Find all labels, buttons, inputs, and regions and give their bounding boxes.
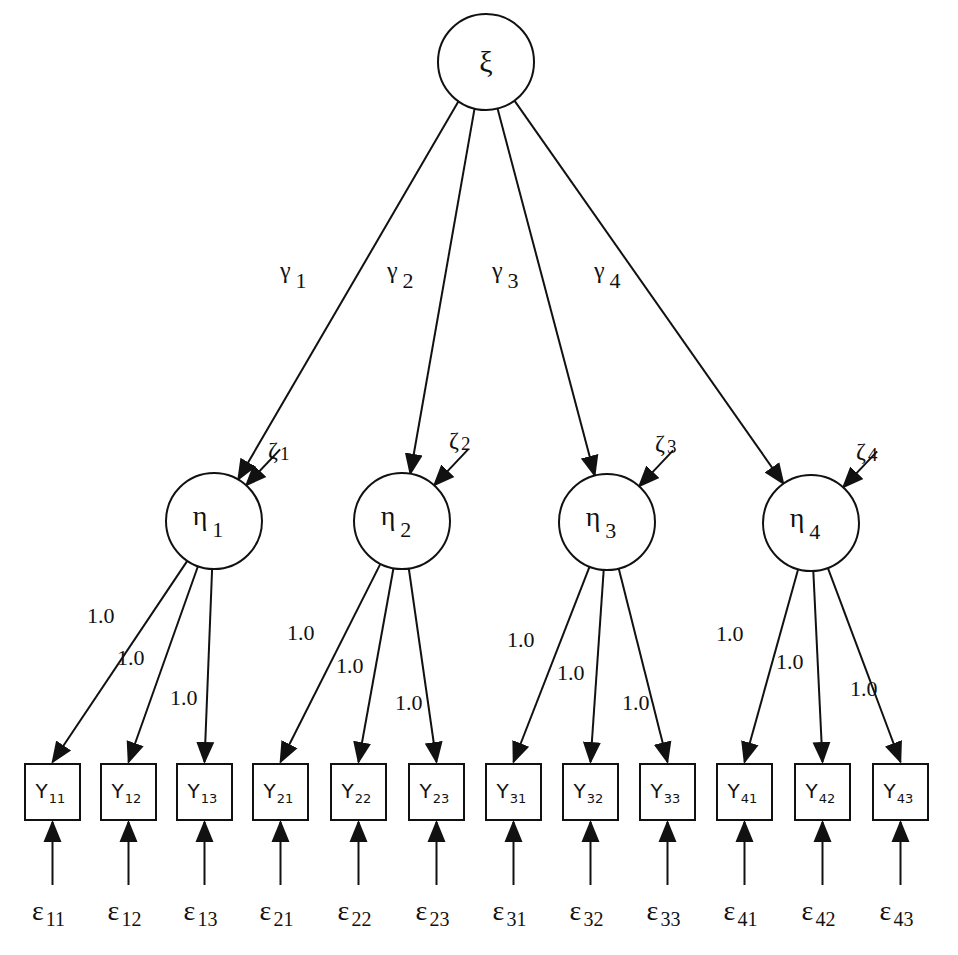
labels-layer: γ1γ2γ3γ4ζ1ζ2ζ3ζ41.01.01.01.01.01.01.01.0…	[32, 257, 913, 930]
gamma-label-3-subscript: 3	[508, 268, 519, 293]
indicator-label-Y32-symbol: Y	[573, 779, 587, 803]
loading-path-Y43	[828, 568, 901, 762]
indicator-label-Y33-subscript: 33	[664, 791, 681, 806]
epsilon-label-Y31-subscript: 31	[506, 908, 526, 930]
zeta-label-3-symbol: ζ	[655, 430, 665, 456]
zeta-label-3-subscript: 3	[667, 436, 677, 457]
epsilon-label-Y21-subscript: 21	[273, 908, 293, 930]
indicator-label-Y21-subscript: 21	[277, 791, 294, 806]
gamma-path-4	[514, 101, 783, 484]
epsilon-label-Y23-subscript: 23	[429, 908, 449, 930]
eta-label-3-subscript: 3	[605, 518, 616, 543]
zeta-label-4-subscript: 4	[868, 444, 878, 465]
epsilon-label-Y21-symbol: ε	[260, 895, 272, 926]
epsilon-label-Y12-subscript: 12	[121, 908, 141, 930]
zeta-label-3: ζ3	[655, 430, 676, 457]
gamma-label-4-symbol: γ	[593, 257, 605, 283]
gamma-path-2	[410, 109, 474, 474]
zeta-label-1-subscript: 1	[280, 443, 290, 464]
loading-path-Y21	[281, 564, 381, 762]
indicator-label-Y11-symbol: Y	[35, 779, 49, 803]
epsilon-label-Y12: ε12	[108, 895, 142, 930]
loading-label-Y42: 1.0	[776, 649, 804, 674]
loading-path-Y23	[409, 569, 437, 762]
epsilon-label-Y22: ε22	[338, 895, 372, 930]
indicator-label-Y33-symbol: Y	[650, 779, 664, 803]
loading-label-Y21: 1.0	[287, 620, 315, 645]
loading-path-Y32	[591, 570, 604, 762]
indicator-label-Y13-subscript: 13	[201, 791, 218, 806]
epsilon-label-Y13: ε13	[184, 895, 218, 930]
loading-label-Y32: 1.0	[557, 660, 585, 685]
epsilon-label-Y11: ε11	[32, 895, 65, 930]
indicator-label-Y21-symbol: Y	[263, 779, 277, 803]
indicator-label-Y22-symbol: Y	[341, 779, 355, 803]
epsilon-label-Y22-subscript: 22	[351, 908, 371, 930]
epsilon-label-Y42-subscript: 42	[815, 908, 835, 930]
indicator-label-Y13-symbol: Y	[187, 779, 201, 803]
epsilon-label-Y42: ε42	[802, 895, 836, 930]
eta-label-2-symbol: η	[381, 500, 396, 531]
epsilon-label-Y23: ε23	[416, 895, 450, 930]
loading-path-Y33	[619, 569, 668, 762]
epsilon-label-Y13-subscript: 13	[197, 908, 217, 930]
xi-label: ξ	[479, 45, 492, 78]
loading-label-Y31: 1.0	[507, 627, 535, 652]
indicator-label-Y11-subscript: 11	[49, 791, 66, 806]
gamma-label-4: γ4	[593, 257, 621, 293]
zeta-label-4-symbol: ζ	[856, 438, 866, 464]
epsilon-label-Y41-subscript: 41	[737, 908, 757, 930]
loading-label-Y33: 1.0	[622, 690, 650, 715]
epsilon-label-Y43: ε43	[880, 895, 914, 930]
nodes-layer: ξη1η2η3η4Y11Y12Y13Y21Y22Y23Y31Y32Y33Y41Y…	[25, 14, 928, 820]
loading-label-Y12: 1.0	[117, 645, 145, 670]
zeta-label-1-symbol: ζ	[268, 437, 278, 463]
sem-path-diagram: ξη1η2η3η4Y11Y12Y13Y21Y22Y23Y31Y32Y33Y41Y…	[0, 0, 958, 955]
zeta-label-4: ζ4	[856, 438, 878, 465]
epsilon-label-Y43-symbol: ε	[880, 895, 892, 926]
gamma-label-1-symbol: γ	[279, 257, 291, 283]
indicator-label-Y42-symbol: Y	[805, 779, 819, 803]
epsilon-label-Y32: ε32	[570, 895, 604, 930]
gamma-label-1-subscript: 1	[296, 268, 307, 293]
eta-label-4-subscript: 4	[809, 519, 820, 544]
epsilon-label-Y32-subscript: 32	[583, 908, 603, 930]
gamma-label-3: γ3	[491, 257, 519, 293]
eta-label-4-symbol: η	[790, 502, 805, 533]
eta-label-2-subscript: 2	[400, 517, 411, 542]
indicator-label-Y43-symbol: Y	[883, 779, 897, 803]
indicator-label-Y12-symbol: Y	[111, 779, 125, 803]
zeta-label-2-symbol: ζ	[449, 427, 459, 453]
indicator-label-Y41-symbol: Y	[727, 779, 741, 803]
eta-label-3-symbol: η	[586, 501, 601, 532]
epsilon-label-Y33-subscript: 33	[660, 908, 680, 930]
eta-label-1-subscript: 1	[212, 517, 223, 542]
indicator-label-Y31-symbol: Y	[496, 779, 510, 803]
eta-label-1-symbol: η	[193, 500, 208, 531]
epsilon-label-Y31: ε31	[493, 895, 527, 930]
epsilon-label-Y41: ε41	[724, 895, 758, 930]
loading-label-Y43: 1.0	[850, 676, 878, 701]
gamma-label-2: γ2	[386, 257, 414, 293]
loading-label-Y13: 1.0	[170, 685, 198, 710]
zeta-path-2	[434, 449, 468, 485]
indicator-label-Y12-subscript: 12	[125, 791, 142, 806]
loading-label-Y22: 1.0	[336, 653, 364, 678]
loading-label-Y11: 1.0	[87, 603, 115, 628]
indicator-label-Y41-subscript: 41	[741, 791, 758, 806]
epsilon-label-Y22-symbol: ε	[338, 895, 350, 926]
loading-label-Y23: 1.0	[395, 690, 423, 715]
loading-label-Y41: 1.0	[716, 621, 744, 646]
gamma-label-2-symbol: γ	[386, 257, 398, 283]
indicator-label-Y23-subscript: 23	[433, 791, 450, 806]
indicator-label-Y43-subscript: 43	[897, 791, 914, 806]
epsilon-label-Y33: ε33	[647, 895, 681, 930]
indicator-label-Y22-subscript: 22	[355, 791, 372, 806]
epsilon-label-Y12-symbol: ε	[108, 895, 120, 926]
gamma-path-1	[238, 101, 458, 479]
epsilon-label-Y42-symbol: ε	[802, 895, 814, 926]
epsilon-label-Y11-symbol: ε	[32, 895, 44, 926]
indicator-label-Y42-subscript: 42	[819, 791, 836, 806]
indicator-label-Y31-subscript: 31	[510, 791, 527, 806]
gamma-label-2-subscript: 2	[403, 268, 414, 293]
